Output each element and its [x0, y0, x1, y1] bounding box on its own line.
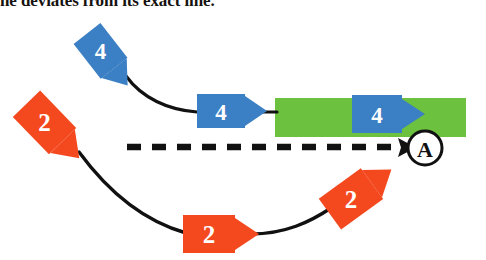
blue-arrow-3-label: 4 — [371, 103, 383, 128]
blue-arrow-2: 4 — [197, 94, 267, 128]
orange-flow-curve-segment-2 — [251, 208, 331, 234]
orange-arrow-3: 2 — [319, 154, 403, 229]
orange-flow-curve — [79, 152, 186, 233]
orange-arrow-2-label: 2 — [203, 221, 216, 248]
orange-arrow-2: 2 — [183, 215, 259, 253]
orange-arrow-1: 2 — [13, 91, 93, 172]
diagram-page: ne deviates from its exact line. 4 4 — [0, 0, 486, 260]
orange-arrow-1-label: 2 — [38, 109, 51, 136]
blue-arrow-1-label: 4 — [95, 39, 107, 64]
blue-arrow-2-label: 4 — [215, 100, 227, 125]
target-node-label: A — [417, 137, 433, 162]
orange-arrow-3-label: 2 — [345, 186, 358, 213]
blue-flow-curve — [126, 76, 197, 112]
diagram-canvas: 4 4 4 2 2 2 — [0, 0, 486, 260]
blue-arrow-1: 4 — [74, 23, 141, 96]
